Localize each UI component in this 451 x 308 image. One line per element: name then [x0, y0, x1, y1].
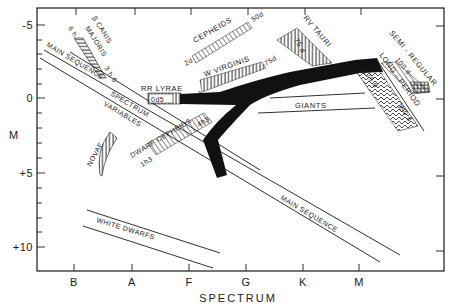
- label-giants: GIANTS: [295, 101, 327, 110]
- y-tick-label: +5: [19, 167, 33, 179]
- x-tick-label: F: [185, 276, 192, 288]
- x-tick-label: A: [128, 276, 136, 288]
- hr-diagram: -5 0 +5 +10 M B A F G K M SPECTRUM MAIN …: [0, 0, 451, 308]
- x-tick-label: K: [299, 276, 307, 288]
- x-tick-label: B: [70, 276, 78, 288]
- y-tick-label: -5: [22, 19, 33, 31]
- label-beta-canis-short: 6 h: [67, 25, 79, 38]
- label-rr-lyrae-period: 0d5: [151, 96, 164, 103]
- novae-region: [99, 132, 117, 176]
- label-cepheids-long: 50d: [250, 10, 265, 23]
- y-tick-label: 0: [26, 92, 33, 104]
- label-w-virginis-long: 75d: [263, 54, 278, 67]
- label-rr-lyrae: RR LYRAE: [141, 84, 183, 93]
- label-white-dwarfs: WHITE DWARFS: [96, 216, 156, 240]
- x-axis-ticks-bottom: [74, 264, 359, 271]
- x-axis-label: SPECTRUM: [199, 292, 277, 304]
- label-cepheids-short: 2d: [183, 56, 194, 66]
- label-dwarf-cepheids-short: 1h3: [139, 155, 154, 168]
- label-main-sequence-lower: MAIN SEQUENCE: [279, 194, 339, 234]
- x-tick-label: G: [241, 276, 250, 288]
- y-axis-ticks-right: [436, 26, 444, 251]
- y-axis-label: M: [9, 129, 19, 141]
- x-axis-ticks-top: [76, 8, 361, 15]
- x-tick-label: M: [354, 276, 364, 288]
- y-tick-label: +10: [13, 241, 33, 253]
